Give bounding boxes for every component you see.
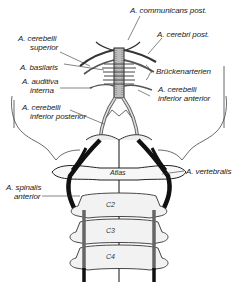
label-cerebelli-superior: A. cerebelli superior: [18, 35, 58, 52]
label-spinalis-anterior: A. spinalis anterior: [6, 184, 41, 201]
label-communicans-post: A. communicans post.: [130, 7, 207, 16]
anatomical-diagram: A. communicans post. A. cerebri post. A.…: [0, 0, 238, 289]
label-c4: C4: [106, 253, 115, 260]
label-cerebri-post: A. cerebri post.: [157, 31, 209, 40]
label-c3: C3: [106, 227, 115, 234]
vertebral-arteries-intracranial: [100, 98, 138, 140]
label-atlas: Atlas: [110, 169, 126, 176]
label-auditiva-interna: A. auditiva interna: [22, 78, 58, 95]
basilar-artery: [114, 48, 124, 98]
label-cerebelli-inferior-anterior: A. cerebelli inferior anterior: [158, 86, 210, 103]
foramen-magnum: [86, 135, 152, 140]
label-basilaris: A. basilaris: [20, 64, 58, 73]
label-c2: C2: [106, 201, 115, 208]
label-brueckenarterien: Brückenarterien: [156, 68, 211, 77]
label-cerebelli-inferior-posterior: A. cerebelli inferior posterior: [22, 104, 86, 121]
label-vertebralis: A. vertebralis: [186, 168, 231, 177]
